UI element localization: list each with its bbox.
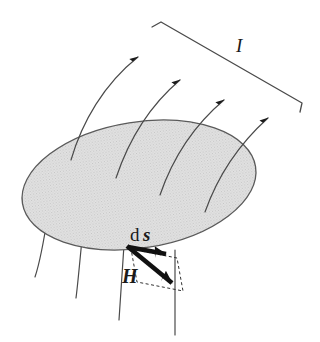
ds-label-s: s [142, 224, 150, 245]
physics-diagram-svg: I d s H [0, 0, 320, 342]
H-label: H [121, 265, 139, 287]
ds-label-d: d [130, 224, 140, 245]
figure-container: I d s H [0, 0, 320, 342]
